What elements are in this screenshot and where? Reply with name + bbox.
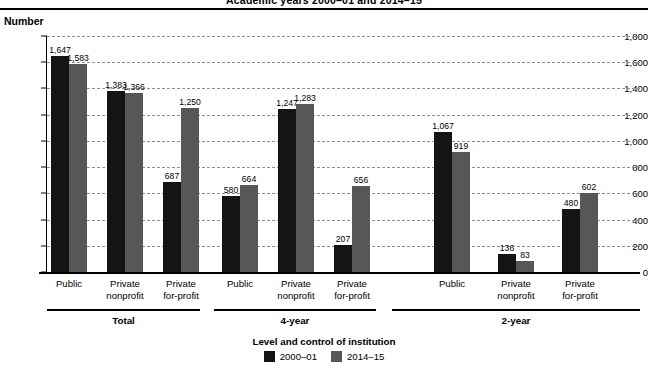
legend-item: 2014–15 — [331, 351, 384, 362]
chart-figure: Academic years 2000–01 and 2014–15 Numbe… — [0, 0, 648, 370]
group-rule — [47, 309, 200, 311]
legend: 2000–012014–15 — [0, 351, 648, 362]
legend-label: 2014–15 — [347, 351, 384, 362]
group-rule — [214, 309, 376, 311]
legend-title: Level and control of institution — [0, 336, 648, 347]
legend-swatch — [264, 351, 275, 362]
legend-label: 2000–01 — [280, 351, 317, 362]
group-label: Total — [112, 315, 135, 326]
group-rule — [392, 309, 640, 311]
legend-swatch — [331, 351, 342, 362]
legend-item: 2000–01 — [264, 351, 317, 362]
group-label: 4-year — [281, 315, 310, 326]
group-label: 2-year — [502, 315, 531, 326]
group-brackets: Total4-year2-year — [0, 0, 648, 370]
